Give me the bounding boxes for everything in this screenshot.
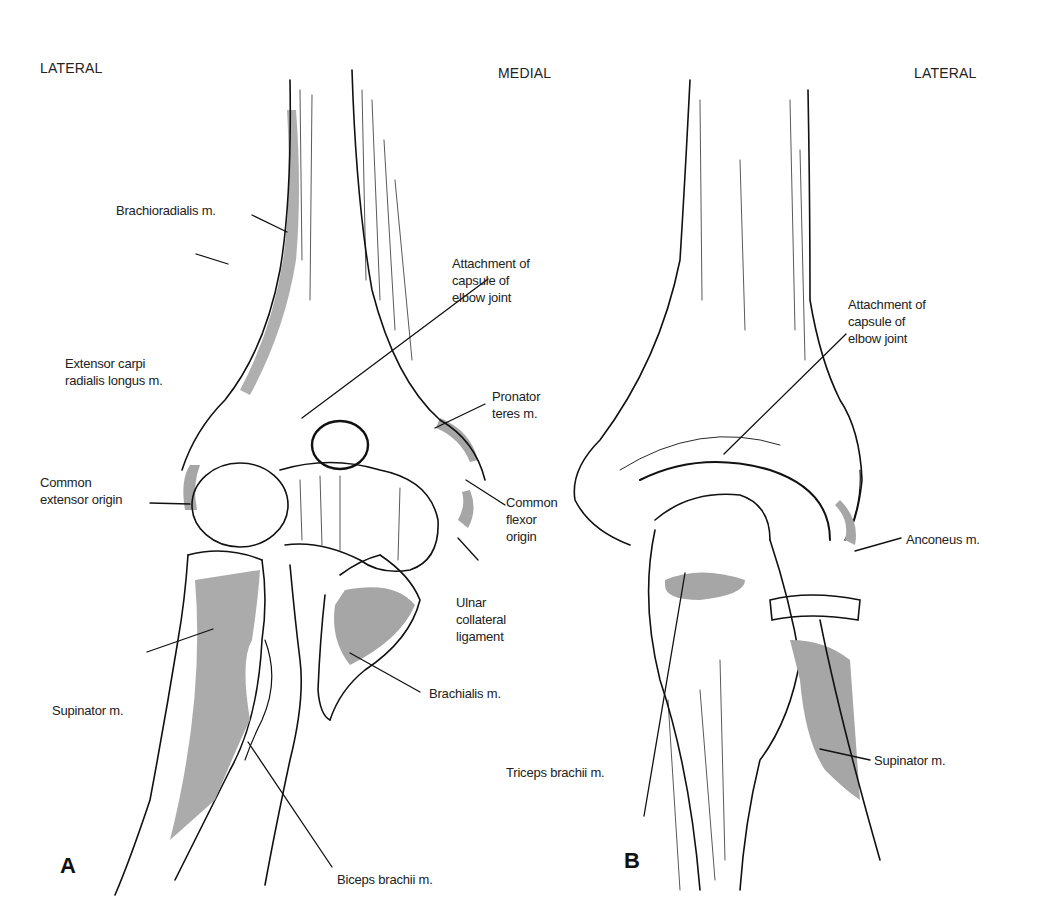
label-attachment-capsule-b: Attachment of capsule of elbow joint	[848, 296, 926, 347]
label-attachment-capsule-a: Attachment of capsule of elbow joint	[452, 255, 530, 306]
label-ulnar-collateral-ligament: Ulnar collateral ligament	[456, 594, 506, 645]
panel-label-b: B	[624, 848, 640, 874]
orientation-label-lateral-b: LATERAL	[914, 65, 977, 81]
label-supinator-a: Supinator m.	[52, 702, 123, 719]
figure-a-bones	[115, 70, 485, 895]
label-common-extensor-origin: Common extensor origin	[40, 474, 122, 508]
label-biceps-brachii: Biceps brachii m.	[337, 871, 433, 888]
orientation-label-lateral-a: LATERAL	[40, 60, 103, 76]
figure-b-bones	[574, 80, 880, 890]
label-common-flexor-origin: Common flexor origin	[506, 494, 558, 545]
label-triceps-brachii: Triceps brachii m.	[506, 764, 605, 781]
elbow-anatomy-illustration	[0, 0, 1039, 924]
label-anconeus: Anconeus m.	[906, 531, 980, 548]
label-brachialis: Brachialis m.	[429, 685, 501, 702]
label-pronator-teres: Pronator teres m.	[492, 388, 540, 422]
label-supinator-b: Supinator m.	[874, 752, 945, 769]
label-extensor-carpi-radialis-longus: Extensor carpi radialis longus m.	[65, 355, 163, 389]
panel-label-a: A	[60, 853, 76, 879]
orientation-label-medial: MEDIAL	[498, 65, 551, 81]
label-brachioradialis: Brachioradialis m.	[116, 202, 216, 219]
